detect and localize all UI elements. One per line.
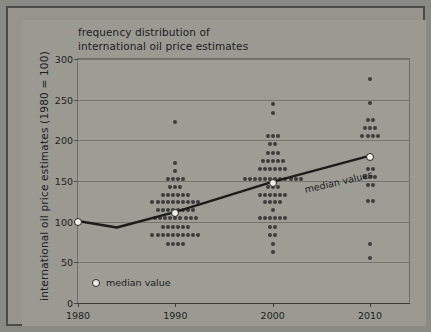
legend-label-median-value: median value bbox=[106, 277, 171, 288]
x-axis-line bbox=[77, 303, 410, 304]
x-axis-tick-label: 1990 bbox=[163, 310, 187, 321]
median-value-icon bbox=[92, 279, 100, 287]
chart-title-line-2: international oil price estimates bbox=[78, 40, 398, 54]
chart-title-line-1: frequency distribution of bbox=[78, 26, 398, 40]
y-axis-title: international oil price estimates (1980 … bbox=[38, 41, 50, 311]
figure: frequency distribution of international … bbox=[0, 0, 431, 332]
y-axis-tick-label: 250 bbox=[55, 94, 73, 105]
x-axis-tick-label: 1980 bbox=[66, 310, 90, 321]
legend: median value bbox=[92, 277, 171, 288]
y-axis-tick-label: 200 bbox=[55, 135, 73, 146]
chart-title: frequency distribution of international … bbox=[78, 26, 398, 53]
y-axis-tick-label: 50 bbox=[61, 257, 73, 268]
median-value-marker bbox=[269, 179, 277, 187]
y-axis-tick-label: 150 bbox=[55, 176, 73, 187]
y-axis-tick-label: 300 bbox=[55, 54, 73, 65]
chart-card: frequency distribution of international … bbox=[22, 20, 426, 326]
median-value-marker bbox=[366, 153, 374, 161]
y-axis-tick-label: 0 bbox=[67, 298, 73, 309]
figure-outer-frame: frequency distribution of international … bbox=[6, 6, 425, 326]
plot-area: median values median value 0501001502002… bbox=[77, 58, 410, 303]
x-axis-tick-label: 2010 bbox=[358, 310, 382, 321]
x-axis-tick-label: 2000 bbox=[261, 310, 285, 321]
median-value-marker bbox=[74, 218, 82, 226]
y-axis-tick-label: 100 bbox=[55, 216, 73, 227]
